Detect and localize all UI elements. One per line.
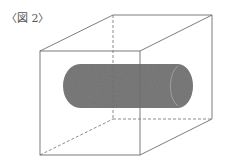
cube-diagram: [0, 0, 226, 168]
edge-bottom-right-depth: [140, 119, 212, 155]
edge-top-right-depth: [140, 15, 212, 51]
hidden-edge-bottom-left-depth: [40, 119, 113, 155]
figure-canvas: 〈図 2〉: [0, 0, 226, 168]
edge-top-left-depth: [40, 15, 113, 51]
cylinder: [63, 64, 193, 108]
